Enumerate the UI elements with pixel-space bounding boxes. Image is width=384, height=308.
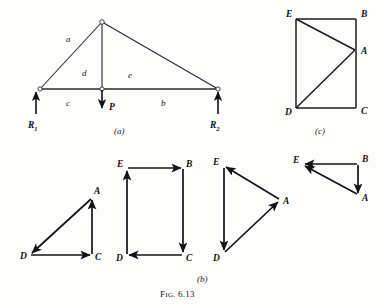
panel-c-vertex-label-B: B <box>360 9 367 19</box>
joint-left-support <box>38 87 42 91</box>
panel-b2-vertex-label-D: D <box>115 253 123 263</box>
panel-c-edge-A-D <box>296 50 355 108</box>
vector-D-to-A <box>225 202 278 252</box>
figure-caption: FIG. 6.13 <box>160 289 195 299</box>
panel-b4-vertex-label-E: E <box>292 155 299 165</box>
vector-A-to-E <box>226 167 279 199</box>
panel-c-vertex-label-D: D <box>284 107 292 117</box>
vector-A-to-D <box>32 199 91 253</box>
panel-b4-vertex-label-A: A <box>361 193 368 203</box>
panel-b3-vertex-label-D: D <box>212 253 220 263</box>
panel-c-edge-E-A <box>296 19 355 50</box>
panel-a-truss: a d e c b P R1 R2 (a) <box>27 20 220 136</box>
figure-page: a d e c b P R1 R2 (a) E B A C D (c) <box>0 0 384 308</box>
label-member-e: e <box>128 70 132 80</box>
label-member-a: a <box>66 34 71 44</box>
joint-right-support <box>216 87 220 91</box>
panel-b3-vertex-label-E: E <box>212 157 219 167</box>
panel-c-label: (c) <box>315 126 325 136</box>
panel-a-label: (a) <box>114 126 125 136</box>
panel-c-vertex-label-C: C <box>361 106 368 116</box>
label-load-p: P <box>109 102 115 112</box>
panel-b1-vertex-label-C: C <box>95 252 102 262</box>
label-member-b: b <box>161 98 166 108</box>
joint-apex <box>100 20 105 25</box>
panel-b4-vertex-label-B: B <box>361 154 368 164</box>
panel-b2-vertex-label-B: B <box>185 159 192 169</box>
panel-c-polygon: E B A C D (c) <box>284 9 368 136</box>
panel-b-diagram-rectangle: E B C D <box>115 159 193 263</box>
truss-member-right-top <box>102 22 218 89</box>
label-member-c: c <box>66 98 70 108</box>
panel-b-diagram-joint-B: E B A <box>292 154 368 203</box>
label-reaction-r2: R2 <box>209 120 220 132</box>
panel-c-vertex-label-E: E <box>285 9 292 19</box>
label-member-d: d <box>82 68 87 78</box>
panel-b2-vertex-label-C: C <box>186 253 193 263</box>
panel-c-vertex-label-A: A <box>360 46 367 56</box>
panel-b1-vertex-label-D: D <box>19 251 27 261</box>
vector-A-to-E <box>305 166 357 194</box>
figure-6-13-canvas: a d e c b P R1 R2 (a) E B A C D (c) <box>0 0 384 308</box>
panel-b2-vertex-label-E: E <box>116 159 123 169</box>
panel-b-diagram-joint-A: E D A <box>212 157 289 263</box>
truss-member-a <box>40 22 102 89</box>
panel-b-diagram-joint-D: D C A <box>19 186 102 262</box>
panel-b1-vertex-label-A: A <box>93 186 100 196</box>
label-reaction-r1: R1 <box>27 120 38 132</box>
panel-b3-vertex-label-A: A <box>282 196 289 206</box>
panel-b-label: (b) <box>197 274 208 284</box>
